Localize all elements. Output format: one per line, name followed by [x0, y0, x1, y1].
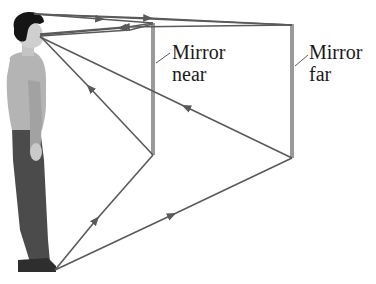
leader-line-far: [295, 55, 308, 66]
mirror-far: [290, 24, 294, 158]
label-mirror-far: Mirror far: [309, 41, 362, 85]
mirror-near: [151, 23, 155, 155]
shoe: [18, 258, 56, 272]
label-mirror-far-line2: far: [309, 63, 362, 85]
label-mirror-near-line2: near: [172, 63, 225, 85]
rays-feet: [40, 36, 292, 270]
leader-line-near: [156, 53, 170, 63]
label-mirror-near-line1: Mirror: [172, 41, 225, 63]
label-mirror-near: Mirror near: [172, 41, 225, 85]
person-figure: [7, 12, 56, 272]
hand: [30, 143, 42, 161]
label-mirror-far-line1: Mirror: [309, 41, 362, 63]
rays-head: [34, 14, 292, 36]
